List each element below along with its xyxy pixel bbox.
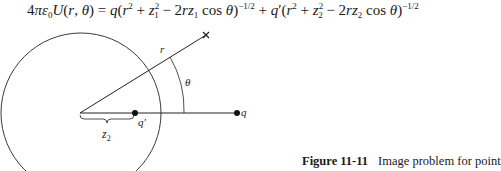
charge-q-dot: [234, 110, 240, 116]
z2-brace: [80, 115, 134, 123]
label-r: r: [160, 43, 165, 55]
caption-text: Image problem for point: [378, 154, 501, 168]
sphere-circle: [1, 33, 161, 171]
label-q-prime: q′: [138, 116, 147, 128]
theta-arc: [170, 57, 184, 113]
r-vector-line: [80, 35, 206, 113]
label-q: q: [241, 106, 247, 118]
figure-caption: Figure 11-11Image problem for point: [302, 154, 501, 169]
figure-number: Figure 11-11: [302, 154, 368, 168]
label-theta: θ: [185, 76, 191, 88]
field-point-cross-icon: [203, 32, 209, 38]
label-z2: z2: [101, 127, 111, 143]
